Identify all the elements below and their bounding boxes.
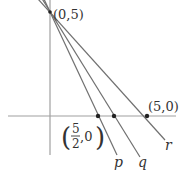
label-p-paren-close: ) — [95, 122, 105, 152]
label-line-q: q — [138, 154, 147, 170]
label-y-intercept: (0,5) — [53, 7, 84, 22]
point-y-intercept — [48, 10, 52, 14]
label-p-paren-open: ( — [61, 122, 71, 152]
label-r-x-intercept: (5,0) — [148, 99, 179, 114]
label-line-p: p — [114, 154, 123, 170]
point-q-x-intercept — [112, 114, 116, 118]
label-p-numerator: 5 — [72, 122, 80, 136]
label-line-r: r — [165, 137, 173, 153]
point-p-x-intercept — [96, 114, 100, 118]
label-p-denominator: 2 — [72, 137, 80, 151]
coordinate-diagram: (0,5) (5,0) ( 5 2 ,0 ) p q r — [0, 0, 186, 176]
label-p-rest: ,0 — [80, 129, 92, 144]
point-r-x-intercept — [145, 114, 149, 118]
